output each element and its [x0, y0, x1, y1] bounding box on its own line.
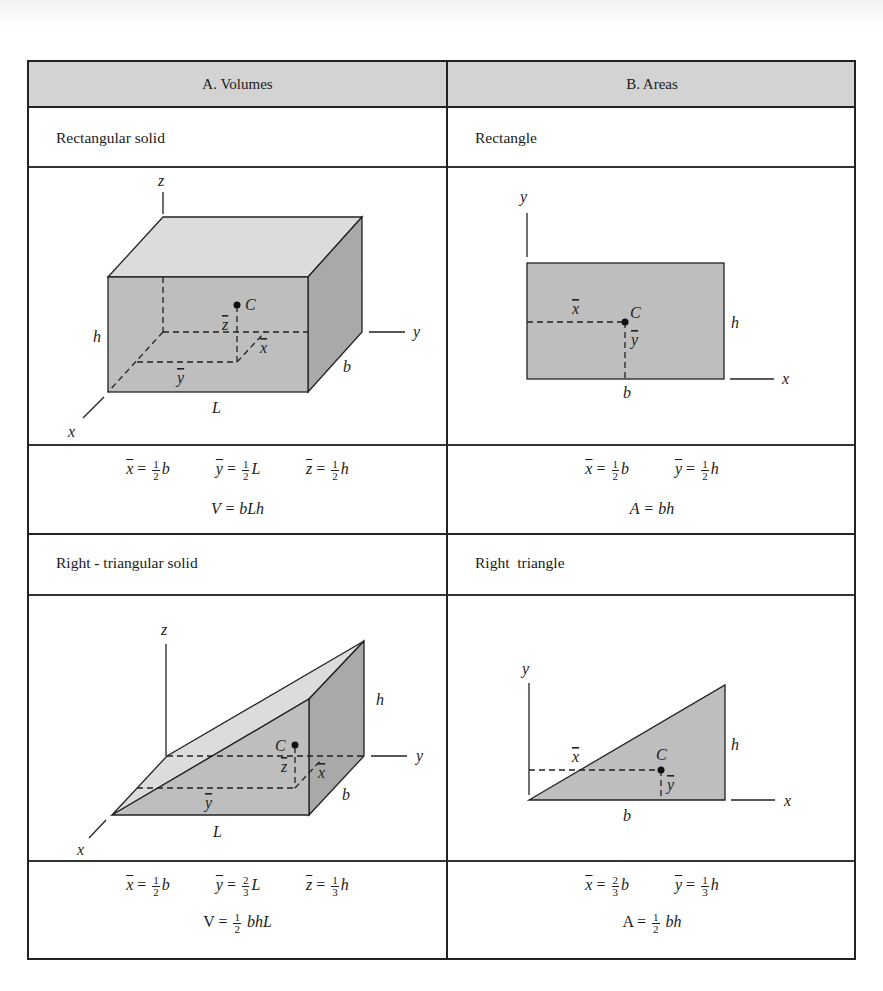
- svg-text:C: C: [656, 746, 667, 763]
- svg-text:L: L: [212, 823, 222, 840]
- svg-text:x: x: [76, 841, 84, 858]
- svg-text:L: L: [211, 399, 221, 416]
- svg-text:y: y: [203, 794, 213, 812]
- rectangular-solid-diagram: [83, 192, 405, 418]
- svg-text:x: x: [67, 423, 75, 440]
- diagrams-layer: z y x C h b L z x y y x C h b x y: [0, 0, 883, 991]
- svg-text:y: y: [411, 323, 421, 341]
- svg-text:b: b: [343, 358, 351, 375]
- svg-text:x: x: [571, 300, 579, 317]
- svg-text:y: y: [518, 188, 528, 206]
- svg-text:z: z: [221, 316, 229, 333]
- centroid-point: [234, 302, 241, 309]
- svg-text:b: b: [623, 807, 631, 824]
- svg-text:b: b: [342, 786, 350, 803]
- svg-text:h: h: [93, 328, 101, 345]
- svg-text:y: y: [414, 747, 424, 765]
- svg-text:y: y: [520, 660, 530, 678]
- centroid-point: [658, 767, 665, 774]
- rectangle-diagram: [527, 213, 774, 379]
- svg-text:b: b: [623, 384, 631, 401]
- svg-text:x: x: [571, 748, 579, 765]
- centroid-point: [622, 319, 629, 326]
- svg-text:y: y: [629, 331, 639, 349]
- face-front: [108, 277, 308, 392]
- svg-text:y: y: [665, 776, 675, 794]
- x-axis: [89, 820, 106, 838]
- x-axis: [83, 397, 104, 418]
- svg-text:x: x: [781, 370, 789, 387]
- centroid-point: [292, 742, 299, 749]
- svg-text:x: x: [317, 764, 325, 781]
- svg-text:C: C: [630, 304, 641, 321]
- svg-text:C: C: [275, 737, 286, 754]
- svg-text:C: C: [245, 296, 256, 313]
- triangle-shape: [529, 685, 725, 800]
- svg-text:h: h: [731, 736, 739, 753]
- svg-text:x: x: [783, 792, 791, 809]
- svg-text:z: z: [280, 758, 288, 775]
- svg-text:z: z: [157, 172, 165, 189]
- svg-text:x: x: [259, 339, 267, 356]
- svg-text:h: h: [376, 691, 384, 708]
- svg-text:h: h: [731, 314, 739, 331]
- svg-text:z: z: [160, 621, 168, 638]
- triangular-solid-diagram: [89, 641, 407, 838]
- svg-text:y: y: [175, 369, 185, 387]
